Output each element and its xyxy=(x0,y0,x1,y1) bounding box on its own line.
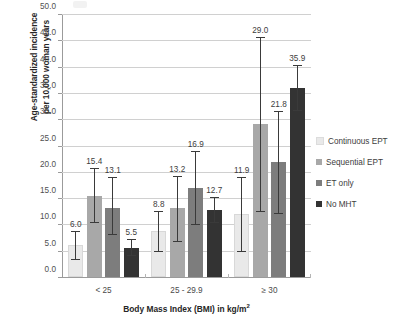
legend-swatch-icon xyxy=(316,180,322,186)
y-tick-label: 10.0 xyxy=(40,212,56,221)
error-cap-upper xyxy=(191,151,200,152)
error-cap-lower xyxy=(191,224,200,225)
error-bar xyxy=(131,240,132,256)
data-label: 16.9 xyxy=(188,140,204,149)
bar-group: 6.015.413.15.5 xyxy=(62,14,145,277)
data-label: 29.0 xyxy=(252,26,268,35)
y-tick-label: 40.0 xyxy=(40,54,56,63)
bar-sequential-ept[interactable]: 15.4 xyxy=(87,13,102,277)
legend-label: Continuous EPT xyxy=(328,137,388,146)
bar-rect xyxy=(290,88,305,277)
error-bar xyxy=(278,112,279,214)
data-label: 5.5 xyxy=(126,228,137,237)
error-cap-lower xyxy=(256,211,265,212)
x-axis-line xyxy=(62,277,311,278)
y-tick-label: 5.0 xyxy=(45,238,56,247)
error-cap-upper xyxy=(256,37,265,38)
x-axis-group-tick xyxy=(310,274,311,278)
error-cap-upper xyxy=(274,111,283,112)
error-bar xyxy=(241,178,242,252)
data-label: 21.8 xyxy=(271,100,287,109)
data-label: 13.1 xyxy=(105,166,121,175)
error-cap-upper xyxy=(173,176,182,177)
error-cap-upper xyxy=(237,177,246,178)
y-tick-mark xyxy=(58,277,62,278)
error-cap-lower xyxy=(293,110,302,111)
error-cap-lower xyxy=(210,222,219,223)
legend: Continuous EPTSequential EPTET onlyNo MH… xyxy=(316,133,402,217)
x-axis-title-text: Body Mass Index (BMI) in kg/m2 xyxy=(123,304,250,314)
error-cap-lower xyxy=(71,259,80,260)
error-bar xyxy=(260,38,261,213)
error-bar xyxy=(297,66,298,112)
y-tick-label: 0.0 xyxy=(45,265,56,274)
data-label: 11.9 xyxy=(234,166,249,175)
error-cap-lower xyxy=(173,241,182,242)
error-cap-lower xyxy=(274,213,283,214)
error-cap-upper xyxy=(293,65,302,66)
error-cap-lower xyxy=(108,234,117,235)
error-cap-lower xyxy=(154,251,163,252)
legend-label: ET only xyxy=(326,179,354,188)
bar-et-only[interactable]: 16.9 xyxy=(188,13,203,277)
legend-swatch-icon xyxy=(316,137,324,145)
bar-no-mht[interactable]: 12.7 xyxy=(207,13,222,277)
bar-continuous-ept[interactable]: 11.9 xyxy=(234,13,249,277)
bar-et-only[interactable]: 13.1 xyxy=(105,13,120,277)
legend-swatch-icon xyxy=(316,159,322,165)
bar-no-mht[interactable]: 35.9 xyxy=(290,13,305,277)
legend-item-sequential-ept[interactable]: Sequential EPT xyxy=(316,154,402,170)
plot-area: 0.05.010.015.020.025.030.035.040.045.050… xyxy=(62,14,311,278)
error-cap-upper xyxy=(127,239,136,240)
x-tick-label: ≥ 30 xyxy=(262,286,278,295)
legend-label: Sequential EPT xyxy=(326,158,383,167)
error-cap-lower xyxy=(90,222,99,223)
error-cap-upper xyxy=(71,231,80,232)
legend-item-continuous-ept[interactable]: Continuous EPT xyxy=(316,133,402,149)
legend-label: No MHT xyxy=(326,200,356,209)
data-label: 15.4 xyxy=(86,157,102,166)
y-tick-label: 35.0 xyxy=(40,80,56,89)
x-axis-group-tick xyxy=(228,274,229,278)
error-cap-upper xyxy=(210,197,219,198)
data-label: 8.8 xyxy=(153,200,164,209)
error-cap-upper xyxy=(108,177,117,178)
error-bar xyxy=(158,212,159,251)
error-cap-lower xyxy=(237,251,246,252)
error-cap-lower xyxy=(127,255,136,256)
x-tick-label: 25 - 29.9 xyxy=(170,286,202,295)
error-cap-upper xyxy=(90,168,99,169)
y-tick-label: 30.0 xyxy=(40,107,56,116)
bar-sequential-ept[interactable]: 13.2 xyxy=(170,13,185,277)
x-tick-label: < 25 xyxy=(95,286,111,295)
data-label: 6.0 xyxy=(70,220,81,229)
bar-et-only[interactable]: 21.8 xyxy=(271,13,286,277)
x-axis-title: Body Mass Index (BMI) in kg/m2 xyxy=(62,303,311,314)
data-label: 13.2 xyxy=(169,165,185,174)
legend-swatch-icon xyxy=(316,201,322,207)
y-tick-label: 50.0 xyxy=(40,2,56,11)
error-bar xyxy=(214,198,215,223)
bar-group: 11.929.021.835.9 xyxy=(228,14,311,277)
error-bar xyxy=(195,152,196,225)
legend-item-no-mht[interactable]: No MHT xyxy=(316,196,402,212)
error-bar xyxy=(75,232,76,259)
x-axis-group-tick xyxy=(145,274,146,278)
data-label: 35.9 xyxy=(289,54,305,63)
data-label: 12.7 xyxy=(206,186,222,195)
top-artifact xyxy=(73,1,87,8)
y-tick-label: 45.0 xyxy=(40,28,56,37)
legend-item-et-only[interactable]: ET only xyxy=(316,175,402,191)
y-axis-title-line-1: Age-standardized incidence xyxy=(28,0,40,162)
bar-continuous-ept[interactable]: 6.0 xyxy=(68,13,83,277)
error-bar xyxy=(177,177,178,242)
error-bar xyxy=(112,178,113,235)
bar-continuous-ept[interactable]: 8.8 xyxy=(151,13,166,277)
bar-sequential-ept[interactable]: 29.0 xyxy=(253,13,268,277)
y-tick-label: 15.0 xyxy=(40,186,56,195)
error-cap-upper xyxy=(154,211,163,212)
bar-no-mht[interactable]: 5.5 xyxy=(124,13,139,277)
bar-chart: Age-standardized incidence per 10,000 wo… xyxy=(0,0,404,321)
y-tick-label: 25.0 xyxy=(40,133,56,142)
error-bar xyxy=(94,169,95,223)
